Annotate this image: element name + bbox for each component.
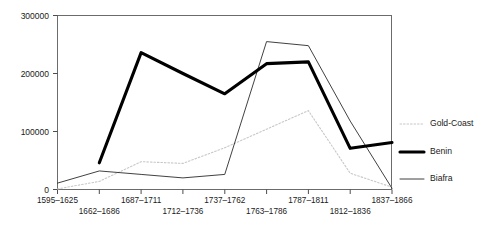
y-axis-label-0: 0	[44, 185, 49, 195]
y-axis-ticks	[53, 16, 58, 190]
series-line-biafra	[58, 42, 393, 189]
x-axis-label-1837-1866: 1837–1866	[372, 196, 413, 205]
x-axis-labels-top-row: 1595–1625 1687–1711 1737–1762 1787–1811 …	[37, 196, 413, 205]
x-axis-label-1812-1836: 1812–1836	[330, 207, 371, 216]
x-axis-ticks	[58, 190, 393, 195]
legend: Gold-Coast Benin Biafra	[400, 118, 474, 183]
x-axis-label-1737-1762: 1737–1762	[204, 196, 245, 205]
x-axis-label-1712-1736: 1712–1736	[162, 207, 203, 216]
x-axis-labels-bottom-row: 1662–1686 1712–1736 1763–1786 1812–1836	[79, 207, 371, 216]
legend-label-benin: Benin	[430, 146, 452, 156]
chart-container: 300000 200000 100000 0 1595–1625 1687–17…	[0, 0, 486, 229]
x-axis-label-1787-1811: 1787–1811	[288, 196, 329, 205]
legend-label-biafra: Biafra	[430, 173, 453, 183]
y-axis-label-300000: 300000	[21, 11, 50, 21]
y-axis-labels: 300000 200000 100000 0	[21, 11, 50, 195]
x-axis-label-1763-1786: 1763–1786	[246, 207, 287, 216]
y-axis-label-100000: 100000	[21, 127, 50, 137]
legend-label-gold-coast: Gold-Coast	[430, 118, 474, 128]
line-chart: 300000 200000 100000 0 1595–1625 1687–17…	[0, 0, 486, 229]
plot-area-frame	[58, 16, 392, 190]
series-line-gold-coast	[58, 111, 393, 189]
x-axis-label-1687-1711: 1687–1711	[121, 196, 162, 205]
series-group	[58, 42, 393, 189]
x-axis-label-1595-1625: 1595–1625	[37, 196, 78, 205]
x-axis-label-1662-1686: 1662–1686	[79, 207, 120, 216]
y-axis-label-200000: 200000	[21, 69, 50, 79]
